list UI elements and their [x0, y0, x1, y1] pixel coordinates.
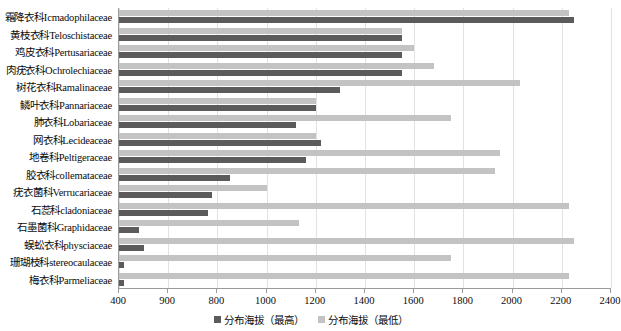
x-axis-tick-labels: 4009008001000120014001600180020002200240… [0, 295, 621, 309]
category-label: 黄枝衣科Teloschistaceae [0, 26, 115, 44]
category-label: 石蕊科cladoniaceae [0, 201, 115, 219]
bar-row [119, 131, 611, 149]
bar-row [119, 236, 611, 254]
bar-row [119, 113, 611, 131]
bar-row [119, 271, 611, 289]
category-label: 霜降衣科Icmadophilaceae [0, 8, 115, 26]
bar-row [119, 61, 611, 79]
category-axis-labels: 霜降衣科Icmadophilaceae黄枝衣科Teloschistaceae鸡皮… [0, 8, 115, 288]
category-label: 树花衣科Ramalinaceae [0, 78, 115, 96]
bar-min-altitude [119, 273, 569, 279]
bar-row [119, 26, 611, 44]
x-axis-tick [315, 288, 316, 293]
x-axis-ticks [118, 288, 610, 293]
x-axis-tick [167, 288, 168, 293]
bar-max-altitude [119, 105, 316, 111]
bar-chart: 霜降衣科Icmadophilaceae黄枝衣科Teloschistaceae鸡皮… [0, 0, 621, 331]
bar-min-altitude [119, 133, 316, 139]
x-axis-tick [118, 288, 119, 293]
bar-row [119, 218, 611, 236]
legend-item[interactable]: 分布海拔（最高） [214, 312, 304, 327]
bar-min-altitude [119, 45, 414, 51]
category-label: 疣衣菌科Verrucariaceae [0, 183, 115, 201]
x-axis-tick-label: 2000 [501, 295, 522, 306]
bar-min-altitude [119, 255, 451, 261]
x-axis-tick [364, 288, 365, 293]
x-axis-tick-label: 800 [209, 295, 225, 306]
x-axis-tick-label: 2200 [550, 295, 571, 306]
bar-min-altitude [119, 220, 299, 226]
bar-min-altitude [119, 168, 495, 174]
category-label: 肺衣科Lobariaceae [0, 113, 115, 131]
bar-min-altitude [119, 185, 267, 191]
x-axis-tick-label: 900 [159, 295, 175, 306]
bar-row [119, 201, 611, 219]
bar-row [119, 43, 611, 61]
bar-max-altitude [119, 192, 212, 198]
bar-min-altitude [119, 63, 434, 69]
bar-row [119, 8, 611, 26]
x-axis-tick-label: 400 [110, 295, 126, 306]
x-axis-tick-label: 2400 [600, 295, 621, 306]
legend-label: 分布海拔（最高） [224, 312, 304, 327]
category-label: 地卷科Peltigeraceae [0, 148, 115, 166]
bar-min-altitude [119, 203, 569, 209]
x-axis-tick-label: 1000 [255, 295, 276, 306]
bar-min-altitude [119, 10, 569, 16]
legend-label: 分布海拔（最低） [328, 312, 408, 327]
x-axis-tick [413, 288, 414, 293]
bar-max-altitude [119, 245, 144, 251]
plot-area [118, 8, 611, 288]
x-axis-tick [216, 288, 217, 293]
x-axis-tick [266, 288, 267, 293]
bar-row [119, 253, 611, 271]
x-axis-tick [561, 288, 562, 293]
gridline [611, 8, 612, 288]
bar-min-altitude [119, 98, 316, 104]
bar-min-altitude [119, 80, 520, 86]
bar-min-altitude [119, 150, 500, 156]
category-label: 鸡皮衣科Pertusariaceae [0, 43, 115, 61]
legend-item[interactable]: 分布海拔（最低） [318, 312, 408, 327]
category-label: 珊瑚枝科stereocaulaceae [0, 253, 115, 271]
category-label: 蜈蚣衣科physciaceae [0, 236, 115, 254]
bar-row [119, 96, 611, 114]
bar-max-altitude [119, 262, 124, 268]
x-axis-tick [512, 288, 513, 293]
bar-max-altitude [119, 227, 139, 233]
bar-max-altitude [119, 70, 402, 76]
bar-min-altitude [119, 28, 402, 34]
bar-max-altitude [119, 52, 402, 58]
x-axis-tick [610, 288, 611, 293]
category-label: 鳞叶衣科Pannariaceae [0, 96, 115, 114]
bar-row [119, 148, 611, 166]
bar-max-altitude [119, 210, 208, 216]
x-axis-tick [462, 288, 463, 293]
category-label: 肉疣衣科Ochrolechiaceae [0, 61, 115, 79]
category-label: 胶衣科collemataceae [0, 166, 115, 184]
category-label: 梅衣科Parmeliaceae [0, 271, 115, 289]
bar-max-altitude [119, 35, 402, 41]
legend-swatch-max-icon [214, 316, 221, 323]
bar-row [119, 166, 611, 184]
bar-max-altitude [119, 175, 230, 181]
chart-legend: 分布海拔（最高）分布海拔（最低） [0, 312, 621, 327]
bar-row [119, 78, 611, 96]
legend-swatch-min-icon [318, 316, 325, 323]
x-axis-tick-label: 1600 [403, 295, 424, 306]
category-label: 网衣科Lecideaceae [0, 131, 115, 149]
x-axis-tick-label: 1800 [452, 295, 473, 306]
bar-row [119, 183, 611, 201]
bar-max-altitude [119, 87, 340, 93]
bar-min-altitude [119, 115, 451, 121]
x-axis-tick-label: 1200 [304, 295, 325, 306]
x-axis-tick-label: 1400 [354, 295, 375, 306]
bar-max-altitude [119, 157, 306, 163]
bar-rows [119, 8, 611, 288]
bar-max-altitude [119, 280, 124, 286]
bar-max-altitude [119, 122, 296, 128]
bar-min-altitude [119, 238, 574, 244]
category-label: 石墨菌科Graphidaceae [0, 218, 115, 236]
bar-max-altitude [119, 140, 321, 146]
bar-max-altitude [119, 17, 574, 23]
